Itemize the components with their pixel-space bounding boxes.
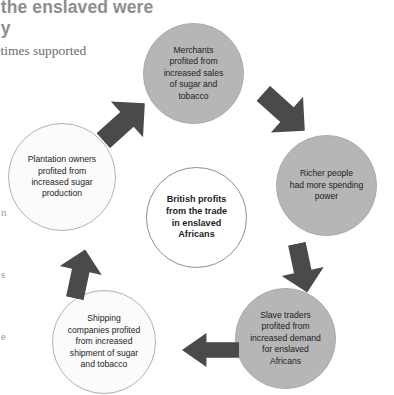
node-center-british-profits[interactable]: British profits from the trade in enslav…: [146, 167, 247, 268]
node-shipping-companies[interactable]: Shipping companies profited from increas…: [52, 290, 156, 394]
arrow-shipping-to-plantation: [49, 244, 110, 304]
margin-fragment-3: e: [1, 330, 6, 342]
node-plantation-owners-label: Plantation owners profited from increase…: [9, 154, 115, 200]
node-slave-traders[interactable]: Slave traders profited from increased de…: [235, 288, 336, 389]
margin-fragment-2: s: [1, 268, 5, 280]
page-body-text: metimes supported: [0, 43, 86, 59]
diagram-page: y the enslaved were ely metimes supporte…: [0, 0, 394, 395]
margin-fragment-1: n: [1, 206, 7, 218]
arrow-richer-people-to-slave-traders: [271, 238, 332, 298]
node-merchants-label: Merchants profited from increased sales …: [144, 45, 243, 102]
page-heading-line-1: y the enslaved were: [0, 0, 226, 18]
node-plantation-owners[interactable]: Plantation owners profited from increase…: [8, 123, 116, 231]
node-richer-people-label: Richer people had more spending power: [277, 168, 376, 202]
node-richer-people[interactable]: Richer people had more spending power: [276, 135, 377, 236]
node-merchants[interactable]: Merchants profited from increased sales …: [143, 23, 244, 124]
node-shipping-companies-label: Shipping companies profited from increas…: [53, 313, 155, 370]
arrow-slave-traders-to-shipping: [182, 333, 239, 367]
node-center-label: British profits from the trade in enslav…: [147, 194, 246, 241]
node-slave-traders-label: Slave traders profited from increased de…: [236, 310, 335, 367]
